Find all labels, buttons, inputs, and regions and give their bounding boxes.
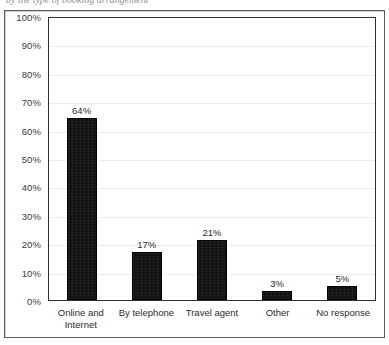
y-axis-tick-label: 90% xyxy=(22,40,41,51)
x-axis-category-line: Other xyxy=(245,307,311,319)
y-axis-tick-label: 20% xyxy=(22,239,41,250)
bar-series: 64%17%21%3%5% xyxy=(49,18,375,300)
bar-value-label: 3% xyxy=(270,278,284,289)
bar-cell: 17% xyxy=(114,18,179,300)
y-axis-tick-label: 80% xyxy=(22,68,41,79)
bar-value-label: 64% xyxy=(72,105,91,116)
x-axis-category-label: By telephone xyxy=(114,303,180,337)
x-axis-category-line: No response xyxy=(310,307,376,319)
x-axis-category-label: Other xyxy=(245,303,311,337)
x-axis-category-line: Online and xyxy=(48,307,114,319)
plot-area: 64%17%21%3%5% xyxy=(48,17,376,301)
bar: 5% xyxy=(327,286,357,300)
bar: 17% xyxy=(132,252,162,300)
bar-cell: 5% xyxy=(310,18,375,300)
bar: 64% xyxy=(67,118,97,300)
y-axis-tick-label: 0% xyxy=(27,296,41,307)
x-axis-category-label: Travel agent xyxy=(179,303,245,337)
y-axis-tick-label: 60% xyxy=(22,125,41,136)
bar-value-label: 5% xyxy=(336,273,350,284)
bar-cell: 64% xyxy=(49,18,114,300)
y-axis-tick-label: 70% xyxy=(22,97,41,108)
x-axis-category-label: Online andInternet xyxy=(48,303,114,337)
chart-frame: 100%90%80%70%60%50%40%30%20%10%0% 64%17%… xyxy=(4,10,385,338)
x-axis: Online andInternetBy telephoneTravel age… xyxy=(48,303,376,337)
x-axis-category-line: Travel agent xyxy=(179,307,245,319)
bar-chart: 100%90%80%70%60%50%40%30%20%10%0% 64%17%… xyxy=(5,11,386,339)
bar: 3% xyxy=(262,291,292,300)
bar-value-label: 21% xyxy=(202,227,221,238)
bar: 21% xyxy=(197,240,227,300)
bar-cell: 3% xyxy=(245,18,310,300)
y-axis: 100%90%80%70%60%50%40%30%20%10%0% xyxy=(5,17,45,301)
y-axis-tick-label: 30% xyxy=(22,210,41,221)
y-axis-tick-label: 10% xyxy=(22,267,41,278)
x-axis-category-line: Internet xyxy=(48,319,114,331)
x-axis-category-label: No response xyxy=(310,303,376,337)
y-axis-tick-label: 40% xyxy=(22,182,41,193)
cutoff-caption: by the type of booking arrangement xyxy=(6,0,336,5)
bar-value-label: 17% xyxy=(137,239,156,250)
x-axis-category-line: By telephone xyxy=(114,307,180,319)
bar-cell: 21% xyxy=(179,18,244,300)
y-axis-tick-label: 100% xyxy=(16,12,41,23)
y-axis-tick-label: 50% xyxy=(22,154,41,165)
